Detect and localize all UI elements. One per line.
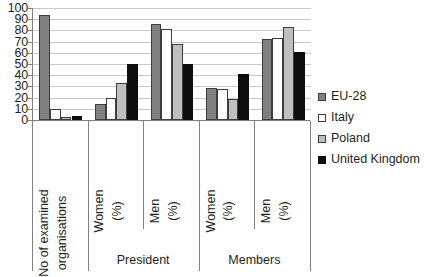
legend-swatch-icon	[318, 156, 326, 164]
category-tick-label: Men(%)	[143, 121, 199, 271]
bar	[217, 89, 228, 120]
category-tick-label: Men(%)	[254, 121, 310, 271]
category-label-line1: Men	[149, 199, 162, 223]
category-label-line1: Women	[93, 190, 106, 233]
bar	[183, 64, 194, 120]
bar	[294, 52, 305, 120]
category-label-line2: (%)	[278, 201, 291, 220]
category-label-line1: Men	[260, 199, 273, 223]
bar	[161, 29, 172, 120]
bar	[262, 39, 273, 120]
bar-chart: 1009080706050403020100 No of examinedorg…	[0, 0, 436, 277]
bar	[272, 38, 283, 120]
bar	[172, 44, 183, 120]
bar	[206, 88, 217, 120]
category-label-line1: No of examined	[38, 189, 51, 277]
bar	[106, 98, 117, 120]
legend-label: Poland	[331, 132, 370, 145]
category-tick-label: No of examinedorganisations	[32, 121, 88, 271]
legend-item[interactable]: Italy	[318, 107, 436, 128]
chart-legend: EU-28ItalyPolandUnited Kingdom	[318, 86, 436, 170]
category-label-line2: (%)	[222, 201, 235, 220]
category-group-label: President	[88, 253, 199, 267]
bar	[39, 15, 50, 120]
legend-label: EU-28	[331, 90, 366, 103]
category-group-label: Members	[199, 253, 310, 267]
legend-swatch-icon	[318, 114, 326, 122]
bar	[238, 74, 249, 120]
category-tick-label: Women(%)	[199, 121, 255, 271]
legend-swatch-icon	[318, 93, 326, 101]
category-axis: No of examinedorganisationsWomen(%)Men(%…	[32, 121, 310, 271]
legend-label: United Kingdom	[331, 153, 420, 166]
bar	[116, 83, 127, 120]
category-label-line2: (%)	[111, 201, 124, 220]
legend-item[interactable]: United Kingdom	[318, 149, 436, 170]
bar	[95, 104, 106, 120]
bars-layer	[33, 8, 311, 120]
bar	[127, 64, 138, 120]
y-axis-tick-label: 0	[0, 115, 28, 125]
bar	[228, 99, 239, 120]
legend-swatch-icon	[318, 135, 326, 143]
legend-item[interactable]: EU-28	[318, 86, 436, 107]
y-axis-tick-labels: 1009080706050403020100	[0, 8, 28, 120]
bar	[151, 24, 162, 120]
category-label-line2: (%)	[167, 201, 180, 220]
bar	[50, 109, 61, 120]
category-tick-label: Women(%)	[88, 121, 144, 271]
bar	[283, 27, 294, 120]
legend-label: Italy	[331, 111, 354, 124]
plot-area	[32, 8, 310, 120]
category-separator	[310, 121, 311, 271]
category-label-line1: Women	[205, 190, 218, 233]
category-label-line2: organisations	[56, 196, 69, 270]
legend-item[interactable]: Poland	[318, 128, 436, 149]
